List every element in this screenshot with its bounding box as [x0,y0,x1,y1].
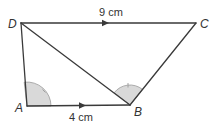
length-label-DC: 9 cm [99,6,123,18]
vertex-label-A: A [14,101,23,115]
angle-mark-A [24,82,51,106]
length-label-AB: 4 cm [69,111,93,123]
vertex-label-C: C [200,17,209,31]
edge-BC [130,23,196,105]
parallel-arrow-icon [79,102,86,108]
parallel-arrow-icon [102,20,109,26]
edge-DA [21,23,27,106]
vertex-label-D: D [8,17,17,31]
vertex-label-B: B [134,105,142,119]
trapezium-diagram: 9 cm 4 cm D C A B [0,0,214,127]
